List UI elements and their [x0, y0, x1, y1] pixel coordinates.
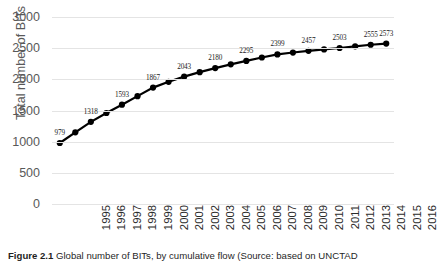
- data-point-marker: [383, 41, 389, 47]
- data-point-label: 2180: [208, 54, 222, 62]
- x-axis-tick-label: 2010: [333, 205, 345, 251]
- plot-area: [52, 17, 394, 204]
- data-point-marker: [274, 51, 280, 57]
- x-axis-tick-label: 2009: [317, 205, 329, 251]
- data-point-marker: [119, 102, 125, 108]
- data-point-label: 2573: [379, 30, 393, 38]
- data-point-marker: [72, 129, 78, 135]
- x-axis-tick-label: 2015: [411, 205, 423, 251]
- x-axis-tick-label: 1998: [146, 205, 158, 251]
- caption-text: Global number of BITs, by cumulative flo…: [53, 250, 357, 261]
- x-axis-tick-label: 1995: [100, 205, 112, 251]
- data-point-label: 2457: [302, 37, 316, 45]
- data-point-marker: [212, 65, 218, 71]
- data-point-label: 2399: [270, 40, 284, 48]
- figure-caption: Figure 2.1 Global number of BITs, by cum…: [8, 250, 401, 261]
- x-axis-tick-label: 2000: [178, 205, 190, 251]
- data-point-marker: [197, 69, 203, 75]
- caption-number: Figure 2.1: [8, 250, 53, 261]
- y-axis-tick-label: 1500: [0, 105, 46, 118]
- x-axis-tick-label: 2016: [426, 205, 438, 251]
- data-point-marker: [88, 119, 94, 125]
- x-axis-tick-label: 2008: [302, 205, 314, 251]
- data-point-label: 2555: [364, 31, 378, 39]
- y-axis-tick-label: 3000: [0, 11, 46, 24]
- data-point-label: 1318: [84, 108, 98, 116]
- x-axis-tick-label: 2003: [224, 205, 236, 251]
- data-point-label: 1593: [115, 91, 129, 99]
- x-axis-tick-labels: 1995199619971998199920002001200220032004…: [52, 205, 394, 251]
- x-axis-tick-label: 2005: [255, 205, 267, 251]
- data-point-label: 1867: [146, 74, 160, 82]
- x-axis-tick-label: 1999: [162, 205, 174, 251]
- gridline: [52, 111, 394, 112]
- data-point-label: 2043: [177, 63, 191, 71]
- data-point-marker: [228, 61, 234, 67]
- y-axis-tick-label: 2000: [0, 73, 46, 86]
- data-point-marker: [243, 58, 249, 64]
- y-axis-tick-label: 1000: [0, 136, 46, 149]
- x-axis-tick-label: 1997: [131, 205, 143, 251]
- x-axis-tick-label: 2007: [286, 205, 298, 251]
- y-axis-tick-label: 2500: [0, 42, 46, 55]
- x-axis-tick-label: 2001: [193, 205, 205, 251]
- x-axis-tick-label: 2014: [395, 205, 407, 251]
- x-axis-tick-label: 2012: [364, 205, 376, 251]
- gridline: [52, 173, 394, 174]
- data-point-marker: [368, 42, 374, 48]
- series-line: [60, 44, 386, 143]
- data-point-marker: [259, 54, 265, 60]
- gridline: [52, 79, 394, 80]
- x-axis-tick-label: 2011: [349, 205, 361, 251]
- data-point-marker: [150, 85, 156, 91]
- gridline: [52, 142, 394, 143]
- y-axis-tick-label: 500: [0, 167, 46, 180]
- data-point-label: 2503: [333, 34, 347, 42]
- data-point-marker: [134, 93, 140, 99]
- gridline: [52, 17, 394, 18]
- x-axis-tick-label: 2013: [380, 205, 392, 251]
- x-axis-tick-label: 1996: [115, 205, 127, 251]
- data-point-marker: [290, 49, 296, 55]
- x-axis-tick-label: 2002: [209, 205, 221, 251]
- data-point-label: 979: [55, 129, 65, 137]
- y-axis-tick-labels: 050010001500200025003000: [0, 0, 46, 260]
- x-axis-tick-label: 2004: [240, 205, 252, 251]
- data-point-label: 2295: [239, 47, 253, 55]
- gridline: [52, 48, 394, 49]
- y-axis-tick-label: 0: [0, 198, 46, 211]
- x-axis-tick-label: 2006: [271, 205, 283, 251]
